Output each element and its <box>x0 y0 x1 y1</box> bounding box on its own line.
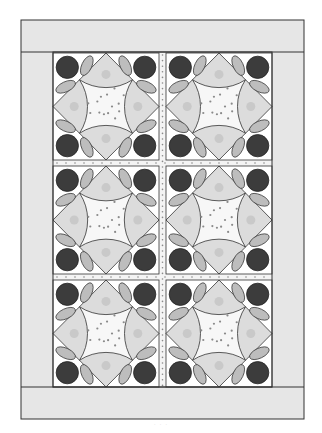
sashing-dot <box>146 276 148 278</box>
center-print-dot <box>118 110 120 112</box>
sashing-dot <box>155 162 157 164</box>
sashing-dot <box>191 276 193 278</box>
sashing-dot <box>74 276 76 278</box>
sashing-dot <box>162 245 164 247</box>
sashing-dot <box>162 177 164 179</box>
sashing-dot <box>162 110 164 112</box>
center-print-dot <box>211 338 213 340</box>
sashing-dot <box>162 228 164 230</box>
center-print-dot <box>211 225 213 227</box>
corner-circle <box>169 249 191 271</box>
center-print-dot <box>123 94 125 96</box>
sashing-dot <box>254 276 256 278</box>
sashing-dot <box>162 351 164 353</box>
center-print-dot <box>100 323 102 325</box>
melon-print <box>215 297 224 306</box>
melon-print <box>133 329 142 338</box>
sashing-dot <box>162 250 164 252</box>
sashing-dot <box>200 162 202 164</box>
sashing-dot <box>162 368 164 370</box>
quilt-block <box>166 280 272 387</box>
center-print-dot <box>213 96 215 98</box>
center-print-dot <box>231 110 233 112</box>
center-print-dot <box>96 327 98 329</box>
sashing-dot <box>162 161 164 163</box>
melon-print <box>215 70 224 79</box>
center-print-dot <box>118 224 120 226</box>
center-print-dot <box>87 216 89 218</box>
sashing-dot <box>110 276 112 278</box>
block-center <box>193 80 246 134</box>
sashing-dot <box>162 301 164 303</box>
sashing-dot <box>162 99 164 101</box>
sashing-dot <box>162 379 164 381</box>
sashing-dot <box>162 183 164 185</box>
sashing-dot <box>162 267 164 269</box>
sashing-dot <box>83 276 85 278</box>
sashing-dot <box>162 211 164 213</box>
sashing-dot <box>162 357 164 359</box>
center-print-dot <box>107 226 109 228</box>
center-print-dot <box>98 338 100 340</box>
melon-print <box>246 329 255 338</box>
center-print-dot <box>107 339 109 341</box>
center-print-dot <box>106 320 108 322</box>
corner-circle <box>247 56 269 78</box>
center-print-dot <box>96 100 98 102</box>
center-print-dot <box>87 329 89 331</box>
center-print-dot <box>224 332 226 334</box>
melon-print <box>183 329 192 338</box>
sashing-dot <box>162 312 164 314</box>
sashing-dot <box>162 222 164 224</box>
center-print-dot <box>213 323 215 325</box>
corner-circle <box>56 135 78 157</box>
sashing-dot <box>162 239 164 241</box>
sashing-dot <box>162 289 164 291</box>
sashing-dot <box>218 276 220 278</box>
corner-circle <box>134 362 156 384</box>
melon-print <box>246 216 255 225</box>
center-print-dot <box>236 208 238 210</box>
center-print-dot <box>118 330 120 332</box>
sashing-dot <box>162 93 164 95</box>
sashing-dot <box>245 276 247 278</box>
center-print-dot <box>231 224 233 226</box>
sashing-dot <box>83 162 85 164</box>
sashing-dot <box>162 127 164 129</box>
block-center <box>193 193 246 247</box>
sashing-dot <box>92 162 94 164</box>
corner-circle <box>247 283 269 305</box>
corner-circle <box>247 249 269 271</box>
center-print-dot <box>236 321 238 323</box>
center-print-dot <box>106 93 108 95</box>
center-print-dot <box>103 340 105 342</box>
corner-circle <box>134 283 156 305</box>
sashing-dot <box>164 162 166 164</box>
sashing-dot <box>119 276 121 278</box>
corner-circle <box>169 169 191 191</box>
melon-print <box>133 216 142 225</box>
center-print-dot <box>111 332 113 334</box>
center-print-dot <box>114 344 116 346</box>
corner-circle <box>169 135 191 157</box>
corner-circle <box>247 169 269 191</box>
center-print-dot <box>209 327 211 329</box>
center-print-dot <box>111 105 113 107</box>
sashing-dot <box>236 276 238 278</box>
sashing-dot <box>236 162 238 164</box>
melon-print <box>70 216 79 225</box>
center-print-dot <box>200 216 202 218</box>
quilt-diagram <box>0 0 322 433</box>
sashing-dot <box>162 256 164 258</box>
corner-circle <box>56 249 78 271</box>
center-print-dot <box>227 231 229 233</box>
center-print-dot <box>216 227 218 229</box>
sashing-dot <box>101 162 103 164</box>
sashing-dot <box>162 60 164 62</box>
center-print-dot <box>98 225 100 227</box>
sashing-dot <box>162 340 164 342</box>
melon-print <box>133 102 142 111</box>
center-print-dot <box>100 96 102 98</box>
melon-print <box>102 361 111 370</box>
center-print-dot <box>111 219 113 221</box>
